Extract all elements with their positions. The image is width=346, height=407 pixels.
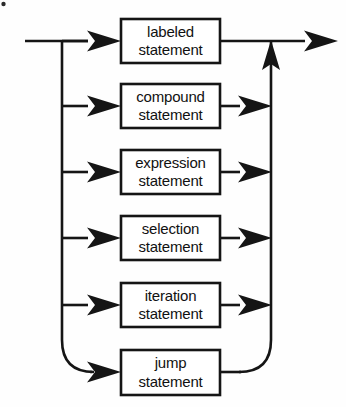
exit-arrow-icon [304,31,338,52]
row2-merge-arrow-icon [238,96,272,117]
alternative-labeled-statement: labeled statement [62,19,220,63]
node-label-line2: statement [138,373,203,390]
alternative-iteration-statement: iteration statement [62,283,272,327]
row3-merge-arrow-icon [238,162,272,183]
node-label-line1: jump [154,354,187,371]
row1-arrow-icon [87,31,121,52]
alternative-compound-statement: compound statement [62,84,272,128]
row3-arrow-icon [87,162,121,183]
railroad-diagram-svg: labeled statement compound statement exp… [0,0,346,407]
alternative-expression-statement: expression statement [62,150,272,194]
syntax-diagram-canvas: labeled statement compound statement exp… [0,0,346,407]
node-label-line2: statement [138,41,203,58]
node-label-line1: labeled [147,23,194,40]
row4-arrow-icon [87,228,121,249]
row5-arrow-icon [87,295,121,316]
alternative-jump-statement: jump statement [87,350,241,395]
scan-artifact-dot [1,2,5,6]
row5-merge-arrow-icon [238,295,272,316]
node-label-line1: expression [135,154,206,171]
node-label-line1: compound [136,88,204,105]
node-label-line1: iteration [145,287,197,304]
row4-merge-arrow-icon [238,228,272,249]
row2-arrow-icon [87,96,121,117]
node-label-line2: statement [138,238,203,255]
alternative-selection-statement: selection statement [62,216,272,260]
right-merge-rail [239,42,271,372]
left-branch-rail [62,41,94,372]
node-label-line1: selection [142,220,199,237]
node-label-line2: statement [138,106,203,123]
node-label-line2: statement [138,172,203,189]
node-label-line2: statement [138,305,203,322]
